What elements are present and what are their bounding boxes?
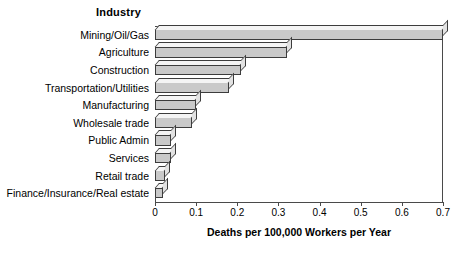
bar-side-face xyxy=(443,20,448,36)
bar xyxy=(155,47,287,58)
bar-top-face xyxy=(155,78,233,83)
bar-front-face xyxy=(155,170,165,181)
x-axis-title: Deaths per 100,000 Workers per Year xyxy=(155,226,443,238)
x-tick-label: 0.5 xyxy=(354,207,368,218)
plot-area: Mining/Oil/GasAgricultureConstructionTra… xyxy=(155,26,443,202)
bar xyxy=(155,100,196,111)
x-tick xyxy=(196,202,197,206)
x-tick-label: 0.7 xyxy=(436,207,450,218)
bar-top-face xyxy=(155,95,200,100)
x-tick xyxy=(443,202,444,206)
bar-side-face xyxy=(241,55,246,71)
category-label: Mining/Oil/Gas xyxy=(80,29,149,41)
bar-front-face xyxy=(155,135,171,146)
bar-side-face xyxy=(165,161,170,177)
category-label: Public Admin xyxy=(88,134,149,146)
category-label: Transportation/Utilities xyxy=(45,82,149,94)
bar-side-face xyxy=(192,108,197,124)
bar-side-face xyxy=(287,37,292,53)
x-tick xyxy=(320,202,321,206)
category-label: Wholesale trade xyxy=(73,117,149,129)
category-label: Retail trade xyxy=(95,170,149,182)
bar-front-face xyxy=(155,47,287,58)
x-tick xyxy=(237,202,238,206)
bar-front-face xyxy=(155,29,443,40)
bar-top-face xyxy=(155,60,246,65)
x-tick-label: 0.3 xyxy=(271,207,285,218)
y-axis-title: Industry xyxy=(96,6,141,18)
x-axis-line xyxy=(155,202,443,203)
x-tick-label: 0 xyxy=(152,207,158,218)
bar-side-face xyxy=(171,125,176,141)
category-label: Services xyxy=(109,152,149,164)
caption-strip xyxy=(0,252,464,261)
bar-front-face xyxy=(155,188,163,199)
bar-top-face xyxy=(155,25,447,30)
x-tick xyxy=(155,202,156,206)
bar xyxy=(155,135,171,146)
bar-side-face xyxy=(163,178,168,194)
x-tick-label: 0.6 xyxy=(395,207,409,218)
category-label: Construction xyxy=(90,64,149,76)
bar xyxy=(155,65,241,76)
x-tick xyxy=(402,202,403,206)
category-label: Manufacturing xyxy=(82,99,149,111)
x-tick-label: 0.2 xyxy=(230,207,244,218)
bar-side-face xyxy=(196,90,201,106)
bar xyxy=(155,82,229,93)
bar xyxy=(155,188,163,199)
bar xyxy=(155,29,443,40)
x-tick-label: 0.4 xyxy=(313,207,327,218)
bar-front-face xyxy=(155,100,196,111)
x-tick xyxy=(278,202,279,206)
bar xyxy=(155,170,165,181)
bar-side-face xyxy=(171,143,176,159)
category-label: Agriculture xyxy=(99,46,149,58)
x-tick-label: 0.1 xyxy=(189,207,203,218)
bar-chart: Industry Mining/Oil/GasAgricultureConstr… xyxy=(0,0,464,261)
bar-top-face xyxy=(155,113,196,118)
category-label: Finance/Insurance/Real estate xyxy=(7,187,149,199)
x-tick xyxy=(361,202,362,206)
bar-front-face xyxy=(155,82,229,93)
bar-front-face xyxy=(155,65,241,76)
bar-top-face xyxy=(155,42,291,47)
